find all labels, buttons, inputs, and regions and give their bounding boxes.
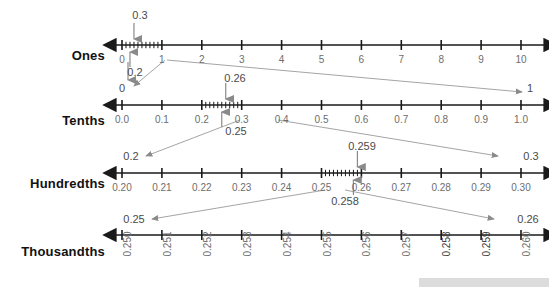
tick-label-hundredths-2: 0.22 xyxy=(192,182,211,193)
tick-label-tenths-9: 0.9 xyxy=(474,114,488,125)
tick-label-ones-0: 0 xyxy=(119,54,125,65)
annotation-tenths-left-endpoint: 0 xyxy=(119,82,125,94)
tick-label-tenths-8: 0.8 xyxy=(434,114,448,125)
tick-label-tenths-4: 0.4 xyxy=(275,114,289,125)
tick-label-hundredths-1: 0.21 xyxy=(152,182,171,193)
tick-label-hundredths-0: 0.20 xyxy=(112,182,131,193)
tick-label-tenths-10: 1.0 xyxy=(514,114,528,125)
footer-strip xyxy=(419,278,549,287)
annotation-tenths-bottom-value: 0.25 xyxy=(225,125,246,137)
tick-label-hundredths-5: 0.25 xyxy=(312,182,331,193)
tick-label-thousandths-1: 0.251 xyxy=(162,231,173,256)
row-label-tenths: Tenths xyxy=(0,113,105,128)
tick-label-thousandths-8: 0.258 xyxy=(441,231,452,256)
tick-label-tenths-5: 0.5 xyxy=(315,114,329,125)
tick-label-ones-9: 9 xyxy=(478,54,484,65)
tick-label-ones-10: 10 xyxy=(515,54,526,65)
axis-tenths xyxy=(115,100,545,110)
tick-label-ones-3: 3 xyxy=(239,54,245,65)
tick-label-ones-5: 5 xyxy=(319,54,325,65)
tick-label-ones-1: 1 xyxy=(159,54,165,65)
annotation-thousandths-left-endpoint: 0.25 xyxy=(123,213,144,225)
link-ones-1-to-tenths-right xyxy=(167,60,522,92)
tick-label-ones-7: 7 xyxy=(399,54,405,65)
annotation-hundredths-right-endpoint: 0.3 xyxy=(523,150,538,162)
tick-label-hundredths-3: 0.23 xyxy=(232,182,251,193)
tick-label-thousandths-4: 0.254 xyxy=(282,231,293,256)
tick-label-ones-4: 4 xyxy=(279,54,285,65)
tick-label-ones-6: 6 xyxy=(359,54,365,65)
annotation-hundredths-top-value: 0.259 xyxy=(348,140,376,152)
axes-group xyxy=(115,40,545,240)
tick-label-tenths-1: 0.1 xyxy=(155,114,169,125)
annotation-thousandths-right-endpoint: 0.26 xyxy=(517,213,538,225)
tick-label-tenths-6: 0.6 xyxy=(354,114,368,125)
figure-canvas: Ones Tenths Hundredths Thousandths 01234… xyxy=(0,0,549,287)
annotation-hundredths-left-endpoint: 0.2 xyxy=(123,150,138,162)
tick-label-tenths-2: 0.2 xyxy=(195,114,209,125)
link-tenths-to-hundredths-right xyxy=(278,120,498,156)
axis-hundredths xyxy=(115,168,545,178)
zoom-connector-group xyxy=(134,60,522,219)
link-hundredths-to-thousandths-left xyxy=(152,190,325,219)
tick-label-ones-2: 2 xyxy=(199,54,205,65)
tick-label-ones-8: 8 xyxy=(438,54,444,65)
tick-label-hundredths-8: 0.28 xyxy=(431,182,450,193)
tick-label-hundredths-4: 0.24 xyxy=(272,182,291,193)
link-hundredths-to-thousandths-right xyxy=(345,190,494,219)
tick-label-thousandths-6: 0.256 xyxy=(361,231,372,256)
annotation-tenths-top-value: 0.26 xyxy=(224,72,245,84)
tick-label-hundredths-6: 0.26 xyxy=(352,182,371,193)
tick-label-hundredths-10: 0.30 xyxy=(511,182,530,193)
row-label-ones: Ones xyxy=(0,48,105,63)
row-label-hundredths: Hundredths xyxy=(0,176,105,191)
tick-label-thousandths-7: 0.257 xyxy=(401,231,412,256)
tick-label-thousandths-10: 0.260 xyxy=(521,231,532,256)
tick-label-tenths-3: 0.3 xyxy=(235,114,249,125)
axis-ones xyxy=(115,40,545,50)
tick-label-hundredths-9: 0.29 xyxy=(471,182,490,193)
annotation-ones-top-value: 0.3 xyxy=(132,9,147,21)
tick-label-tenths-0: 0.0 xyxy=(115,114,129,125)
tick-label-thousandths-5: 0.255 xyxy=(322,231,333,256)
tick-label-hundredths-7: 0.27 xyxy=(392,182,411,193)
tick-label-thousandths-3: 0.253 xyxy=(242,231,253,256)
annotation-ones-to-tenths-value: 0.2 xyxy=(127,66,142,78)
tick-label-thousandths-2: 0.252 xyxy=(202,231,213,256)
tick-label-tenths-7: 0.7 xyxy=(394,114,408,125)
tick-label-thousandths-0: 0.250 xyxy=(122,231,133,256)
annotation-tenths-right-endpoint: 1 xyxy=(527,82,533,94)
tick-label-thousandths-9: 0.259 xyxy=(481,231,492,256)
row-label-thousandths: Thousandths xyxy=(0,244,105,259)
annotation-hundredths-bottom-value: 0.258 xyxy=(331,195,359,207)
